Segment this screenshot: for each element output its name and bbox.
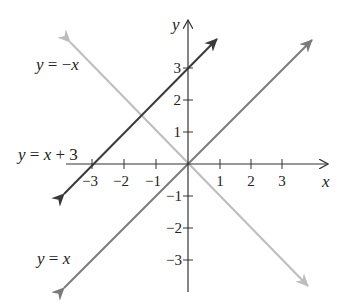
x-tick-label: −3 — [82, 173, 98, 189]
y-tick-label: −3 — [166, 252, 182, 268]
x-tick-label: 3 — [278, 173, 286, 189]
y-tick-label: −2 — [166, 220, 182, 236]
label-y-eq-x-plus-3: y = x + 3 — [16, 145, 78, 164]
y-tick-label: 3 — [174, 60, 182, 76]
y-tick-label: 1 — [174, 124, 182, 140]
label-y-eq-x: y = x — [35, 249, 71, 268]
y-tick-label: −1 — [166, 188, 182, 204]
x-axis-label: x — [321, 172, 330, 191]
line-y-eq-x-plus-3 — [64, 39, 217, 194]
y-axis-label: y — [170, 15, 180, 34]
label-y-eq-neg-x: y = −x — [34, 55, 79, 74]
x-tick-label: −2 — [113, 173, 129, 189]
x-tick-label: −1 — [145, 173, 161, 189]
x-tick-label: 1 — [216, 173, 224, 189]
coordinate-plane: −3 −2 −1 1 2 3 3 2 1 −1 −2 −3 x y y = −x… — [0, 0, 349, 304]
y-tick-label: 2 — [174, 92, 182, 108]
x-tick-label: 2 — [247, 173, 255, 189]
